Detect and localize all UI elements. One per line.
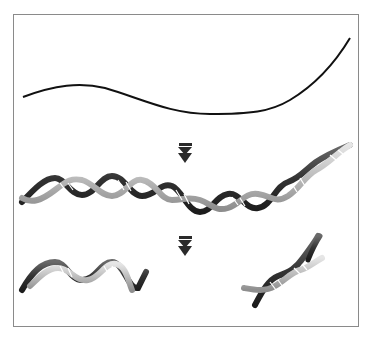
single-strand-line <box>23 38 350 114</box>
double-down-arrow-icon <box>178 143 192 163</box>
helix-fragment-left <box>22 262 146 290</box>
double-down-arrow-icon <box>178 236 192 256</box>
helix-fragment-right <box>244 236 322 305</box>
diagram-canvas <box>0 0 371 339</box>
